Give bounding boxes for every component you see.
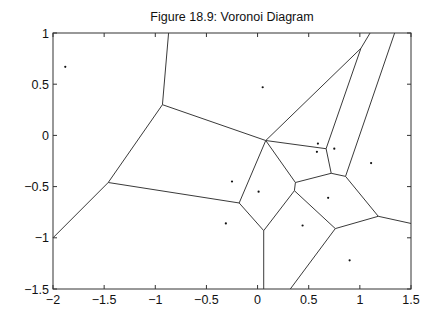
site-point xyxy=(257,191,259,193)
voronoi-edges xyxy=(53,33,411,289)
x-axis: −2−1.5−1−0.500.511.5 xyxy=(46,33,420,307)
site-point xyxy=(316,151,318,153)
voronoi-edge xyxy=(266,141,296,183)
voronoi-edge xyxy=(239,141,266,203)
y-tick-label: 1 xyxy=(42,27,49,41)
site-point xyxy=(327,197,329,199)
voronoi-edge xyxy=(346,33,395,176)
y-tick-label: −1.5 xyxy=(24,283,49,297)
voronoi-edge xyxy=(294,183,295,191)
y-axis: 10.50−0.5−1−1.5 xyxy=(24,27,411,297)
x-tick-label: −1.5 xyxy=(92,293,117,307)
voronoi-edge xyxy=(264,191,295,231)
voronoi-edge xyxy=(108,105,162,183)
voronoi-edge xyxy=(346,176,379,216)
voronoi-edge xyxy=(53,183,108,238)
voronoi-edge xyxy=(331,173,345,176)
voronoi-sites xyxy=(64,66,372,262)
voronoi-edge xyxy=(266,48,361,140)
x-tick-label: −0.5 xyxy=(194,293,219,307)
site-point xyxy=(225,222,227,224)
site-point xyxy=(262,86,264,88)
x-tick-label: −1 xyxy=(148,293,162,307)
x-tick-label: 0 xyxy=(254,293,261,307)
y-tick-label: −1 xyxy=(35,231,49,245)
voronoi-edge xyxy=(239,203,264,231)
y-tick-label: 0.5 xyxy=(32,78,49,92)
y-tick-label: −0.5 xyxy=(24,180,49,194)
voronoi-edge xyxy=(326,48,361,148)
site-point xyxy=(370,162,372,164)
voronoi-edge xyxy=(290,229,335,289)
site-point xyxy=(231,180,233,182)
site-point xyxy=(301,224,303,226)
voronoi-edge xyxy=(294,191,335,229)
x-tick-label: 1 xyxy=(356,293,363,307)
x-tick-label: 1.5 xyxy=(402,293,419,307)
site-point xyxy=(317,142,319,144)
voronoi-edge xyxy=(266,141,326,149)
voronoi-edge xyxy=(326,149,331,174)
site-point xyxy=(349,259,351,261)
site-point xyxy=(64,66,66,68)
x-tick-label: 0.5 xyxy=(300,293,317,307)
site-point xyxy=(333,148,335,150)
voronoi-edge xyxy=(378,216,411,223)
chart-title: Figure 18.9: Voronoi Diagram xyxy=(150,10,313,24)
voronoi-figure: Figure 18.9: Voronoi Diagram −2−1.5−1−0.… xyxy=(0,0,444,324)
voronoi-edge xyxy=(335,216,378,228)
voronoi-edge xyxy=(162,105,265,141)
y-tick-label: 0 xyxy=(42,129,49,143)
voronoi-edge xyxy=(108,183,239,203)
voronoi-edge xyxy=(295,173,331,182)
voronoi-edge xyxy=(361,33,370,48)
voronoi-edge xyxy=(162,33,168,105)
plot-area xyxy=(53,33,411,289)
